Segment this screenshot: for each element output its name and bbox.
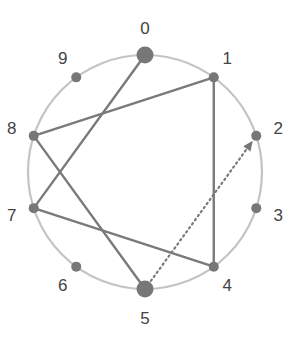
node-label-3: 3 xyxy=(273,206,282,225)
node-8 xyxy=(29,131,39,141)
ring xyxy=(28,55,262,289)
node-7 xyxy=(29,203,39,213)
node-label-9: 9 xyxy=(58,49,67,68)
node-label-0: 0 xyxy=(140,19,149,38)
node-6 xyxy=(71,262,81,272)
node-label-1: 1 xyxy=(223,49,232,68)
node-2 xyxy=(251,131,261,141)
node-5 xyxy=(137,281,154,298)
node-label-4: 4 xyxy=(223,276,232,295)
edges-layer xyxy=(34,55,253,289)
edge-5-2 xyxy=(145,147,248,289)
node-3 xyxy=(251,203,261,213)
node-label-7: 7 xyxy=(7,206,16,225)
node-label-6: 6 xyxy=(58,276,67,295)
node-4 xyxy=(209,262,219,272)
circular-graph: 0123456789 xyxy=(0,0,285,344)
node-0 xyxy=(137,47,154,64)
node-label-2: 2 xyxy=(273,119,282,138)
node-label-5: 5 xyxy=(140,309,149,328)
nodes-layer xyxy=(29,47,262,298)
node-9 xyxy=(71,72,81,82)
arrowhead-icon xyxy=(243,141,253,152)
node-1 xyxy=(209,72,219,82)
node-label-8: 8 xyxy=(7,119,16,138)
